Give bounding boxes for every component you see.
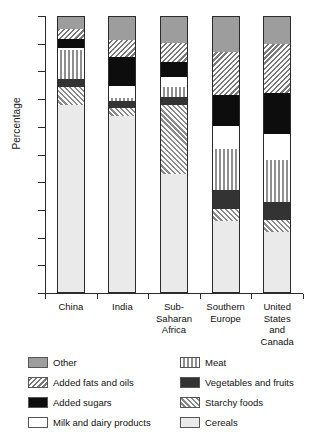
y-axis-tick (38, 238, 45, 239)
bar-segment (161, 87, 187, 97)
y-axis-tick (38, 44, 45, 45)
y-axis-tick (38, 265, 45, 266)
bar-india[interactable] (108, 16, 136, 293)
legend-swatch-cereals-icon (180, 417, 200, 428)
bar-sub-saharan-africa[interactable] (160, 16, 188, 293)
y-axis-tick (38, 155, 45, 156)
bar-segment (161, 174, 187, 292)
bar-segment (213, 221, 239, 292)
legend-label: Added sugars (53, 397, 112, 408)
bar-segment (264, 93, 290, 135)
x-axis-label-line: United (246, 301, 308, 313)
bar-segment (213, 95, 239, 125)
x-axis-label-line: Africa (143, 324, 205, 336)
legend-swatch-meat-icon (180, 357, 200, 368)
bar-segment (109, 116, 135, 292)
bar-segment (213, 209, 239, 221)
bar-segment (109, 108, 135, 116)
bar-segment (161, 62, 187, 77)
bar-segment (58, 48, 84, 49)
x-axis-label: UnitedStatesandCanada (246, 301, 308, 347)
legend-item-sugars[interactable]: Added sugars (28, 392, 178, 412)
legend-label: Milk and dairy products (53, 417, 151, 428)
y-axis-tick (38, 71, 45, 72)
x-axis-tick (303, 294, 304, 299)
bar-segment (213, 16, 239, 52)
bar-segment (161, 16, 187, 43)
bar-segment (264, 220, 290, 232)
x-axis-tick (251, 294, 252, 299)
y-axis-tick (38, 210, 45, 211)
bar-segment (264, 160, 290, 202)
bar-segment (213, 52, 239, 95)
bar-segment (264, 16, 290, 44)
x-axis-tick (45, 294, 46, 299)
bar-segment (161, 77, 187, 87)
legend-label: Vegetables and fruits (205, 377, 294, 388)
x-axis-line (45, 293, 303, 294)
bar-segment (213, 149, 239, 189)
x-axis-label-line: States (246, 313, 308, 325)
bar-segment (58, 50, 84, 79)
legend-item-milk[interactable]: Milk and dairy products (28, 412, 178, 432)
legend-swatch-milk-icon (28, 417, 48, 428)
legend-item-cereals[interactable]: Cereals (180, 412, 321, 432)
bar-segment (264, 202, 290, 220)
legend-item-meat[interactable]: Meat (180, 352, 321, 372)
bar-segment (109, 57, 135, 86)
legend-swatch-sugars-icon (28, 397, 48, 408)
legend-item-fats[interactable]: Added fats and oils (28, 372, 178, 392)
bar-segment (58, 29, 84, 39)
bar-segment (109, 101, 135, 108)
x-axis-label-line: and (246, 324, 308, 336)
y-axis-tick (38, 16, 45, 17)
bar-southern-europe[interactable] (212, 16, 240, 293)
legend-label: Other (53, 357, 77, 368)
x-axis-tick (148, 294, 149, 299)
stacked-bar-chart-figure: Percentage 0102030405060708090100 ChinaI… (0, 0, 321, 439)
legend-column-left: OtherAdded fats and oilsAdded sugarsMilk… (28, 352, 178, 432)
bar-united-states-and-canada[interactable] (263, 16, 291, 293)
bar-segment (58, 79, 84, 87)
plot-area: 0102030405060708090100 ChinaIndiaSub-Sah… (45, 16, 303, 294)
bar-segment (58, 87, 84, 105)
x-axis-tick (200, 294, 201, 299)
bar-segment (109, 40, 135, 57)
bar-segment (58, 105, 84, 292)
bar-segment (58, 39, 84, 49)
legend-label: Added fats and oils (53, 377, 134, 388)
legend-label: Meat (205, 357, 226, 368)
legend-item-starchy[interactable]: Starchy foods (180, 392, 321, 412)
bar-segment (264, 44, 290, 92)
legend-swatch-veg-icon (180, 377, 200, 388)
y-axis-line (45, 16, 46, 294)
legend-column-right: MeatVegetables and fruitsStarchy foodsCe… (180, 352, 321, 432)
bar-segment (213, 190, 239, 209)
legend-label: Starchy foods (205, 397, 263, 408)
y-axis-tick (38, 99, 45, 100)
x-axis-label-line: Canada (246, 336, 308, 348)
legend-item-veg[interactable]: Vegetables and fruits (180, 372, 321, 392)
bar-segment (109, 16, 135, 40)
y-axis-tick (38, 127, 45, 128)
legend-item-other[interactable]: Other (28, 352, 178, 372)
bar-segment (161, 43, 187, 62)
legend-swatch-other-icon (28, 357, 48, 368)
bar-segment (264, 134, 290, 160)
y-axis-tick (38, 182, 45, 183)
y-axis-title: Percentage (11, 64, 22, 184)
bar-segment (264, 232, 290, 292)
legend-swatch-fats-icon (28, 377, 48, 388)
bar-segment (109, 98, 135, 101)
bar-china[interactable] (57, 16, 85, 293)
bar-segment (213, 126, 239, 150)
bar-segment (161, 97, 187, 105)
bar-segment (58, 16, 84, 29)
legend-label: Cereals (205, 417, 238, 428)
y-axis-tick (38, 293, 45, 294)
bar-segment (109, 86, 135, 98)
x-axis-tick (97, 294, 98, 299)
bar-segment (161, 105, 187, 174)
legend-swatch-starchy-icon (180, 397, 200, 408)
